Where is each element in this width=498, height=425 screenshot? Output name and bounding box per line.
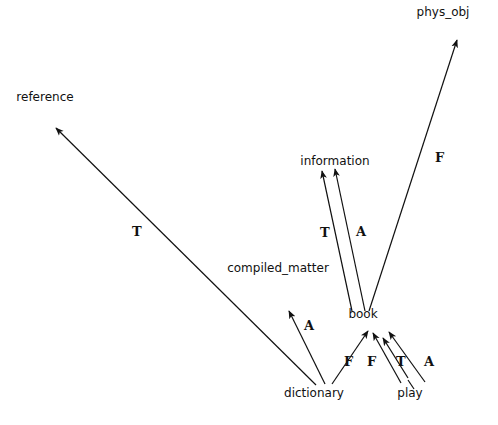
nodes: phys_obj reference information compiled_… (16, 5, 469, 400)
edge-book-phys_obj (369, 40, 457, 311)
edge-label-dictionary-compiled_matter: A (303, 318, 315, 333)
graph-diagram: F T T A A F F T A phys_obj reference inf… (0, 0, 498, 425)
edge-label-play-book-f: F (367, 354, 377, 369)
node-dictionary: dictionary (284, 386, 344, 400)
edge-book-information-t (322, 171, 352, 311)
edge-book-information-a (335, 169, 365, 311)
edge-label-play-book-a: A (423, 354, 435, 369)
edges (56, 40, 457, 389)
node-information: information (300, 154, 369, 168)
edge-label-book-phys_obj: F (435, 150, 445, 165)
edge-label-play-book-t: T (396, 354, 406, 369)
edge-dictionary-reference (56, 128, 316, 385)
node-compiled_matter: compiled_matter (227, 261, 329, 275)
edge-label-book-information-a: A (355, 224, 367, 239)
node-play: play (397, 386, 422, 400)
edge-labels: F T T A A F F T A (132, 150, 445, 369)
node-phys_obj: phys_obj (417, 5, 470, 19)
edge-label-dictionary-book: F (344, 354, 354, 369)
edge-label-book-information-t: T (320, 225, 330, 240)
node-book: book (348, 307, 377, 321)
node-reference: reference (16, 90, 73, 104)
edge-label-dictionary-reference: T (132, 224, 142, 239)
